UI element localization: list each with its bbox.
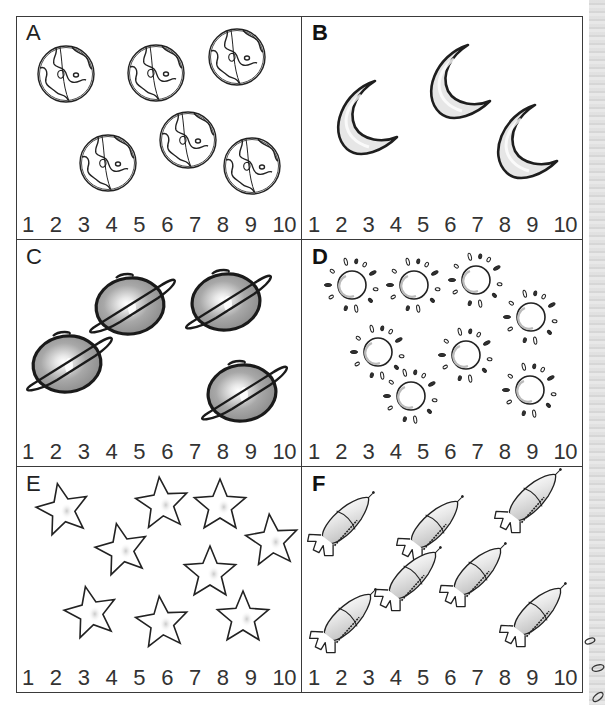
star-icon	[136, 596, 187, 646]
earth-icon	[128, 45, 184, 101]
earth-icon	[80, 135, 136, 191]
star-icon	[95, 524, 145, 575]
sun-icon	[448, 253, 502, 307]
rocket-icon	[435, 531, 517, 613]
sun-icon	[438, 328, 492, 382]
earth-icon	[160, 112, 216, 168]
star-icon	[136, 477, 187, 527]
sun-icon	[386, 258, 440, 312]
earth-icon	[209, 29, 265, 85]
sun-icon	[503, 290, 557, 344]
moon-icon	[338, 81, 397, 154]
sun-icon	[324, 258, 378, 312]
star-icon	[246, 514, 297, 564]
moon-icon	[431, 45, 490, 118]
star-icon	[217, 591, 268, 640]
rocket-icon	[490, 457, 572, 539]
sun-icon	[502, 363, 556, 417]
sun-icon	[383, 369, 437, 423]
ringed-planet-icon	[90, 274, 175, 339]
worksheet-artwork	[0, 0, 605, 705]
star-icon	[194, 479, 245, 528]
star-icon	[64, 587, 114, 638]
ringed-planet-icon	[27, 332, 112, 397]
ringed-planet-icon	[202, 361, 287, 426]
star-icon	[184, 546, 235, 595]
earth-icon	[224, 138, 280, 194]
ringed-planet-icon	[186, 270, 271, 335]
earth-icon	[38, 46, 94, 102]
moon-icon	[498, 105, 557, 178]
stray-rays-decoration	[584, 637, 604, 703]
sun-icon	[350, 325, 404, 379]
star-icon	[36, 484, 86, 535]
rocket-icon	[303, 480, 385, 562]
rocket-icon	[495, 571, 577, 653]
